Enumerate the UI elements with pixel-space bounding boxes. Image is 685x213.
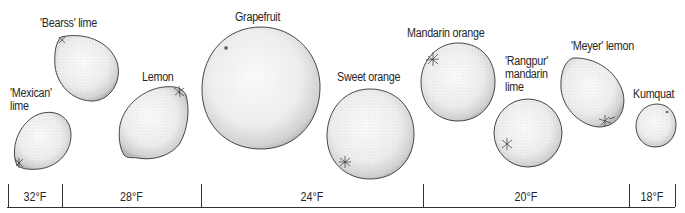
scale-divider [201, 184, 202, 207]
temp-label-32f: 32°F [12, 190, 58, 204]
temp-label-28f: 28°F [72, 190, 192, 204]
mandarin-orange-illustration [420, 42, 496, 122]
label-sweet-orange: Sweet orange [337, 71, 400, 84]
label-grapefruit: Grapefruit [235, 11, 280, 24]
grapefruit-illustration [201, 25, 321, 151]
label-meyer-lemon: 'Meyer' lemon [571, 40, 634, 53]
rangpur-mandarin-lime-illustration [493, 98, 563, 168]
scale-divider [423, 184, 424, 207]
label-bearss-lime: 'Bearss' lime [40, 17, 97, 30]
temp-label-20f: 20°F [437, 190, 614, 204]
scale-baseline [7, 207, 675, 208]
scale-divider [62, 184, 63, 207]
scale-divider [629, 184, 630, 207]
temp-label-24f: 24°F [217, 190, 408, 204]
stem-mark-icon [224, 46, 228, 50]
label-kumquat: Kumquat [633, 88, 674, 101]
stem-mark-icon [666, 111, 669, 113]
lemon-illustration [118, 85, 190, 161]
kumquat-illustration [635, 103, 677, 148]
label-lemon: Lemon [142, 71, 174, 84]
mexican-lime-illustration [11, 109, 73, 171]
scale-divider [8, 184, 9, 207]
label-mandarin-orange: Mandarin orange [407, 27, 484, 40]
temp-label-18f: 18°F [632, 190, 672, 204]
label-line: lime [505, 81, 548, 94]
bearss-lime-illustration [53, 34, 120, 102]
scale-divider [675, 184, 676, 207]
label-rangpur-mandarin-lime: 'Rangpur' mandarin lime [505, 55, 548, 94]
meyer-lemon-illustration [559, 57, 625, 128]
sweet-orange-illustration [326, 88, 416, 180]
